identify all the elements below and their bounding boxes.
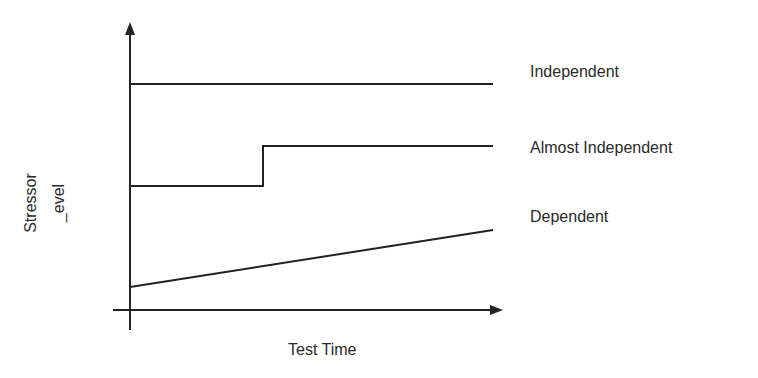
x-axis-arrow-icon bbox=[490, 305, 503, 315]
y-axis-arrow-icon bbox=[125, 22, 135, 35]
label-independent: Independent bbox=[530, 63, 619, 81]
y-axis-label-line2: _evel bbox=[50, 163, 68, 243]
label-almost-independent: Almost Independent bbox=[530, 139, 672, 157]
y-axis-label-line1: Stressor bbox=[22, 163, 40, 243]
series-almost-independent-line bbox=[130, 146, 493, 186]
label-dependent: Dependent bbox=[530, 208, 608, 226]
diagram-canvas bbox=[0, 0, 758, 378]
x-axis-label: Test Time bbox=[288, 341, 356, 359]
series-dependent-line bbox=[130, 230, 493, 287]
